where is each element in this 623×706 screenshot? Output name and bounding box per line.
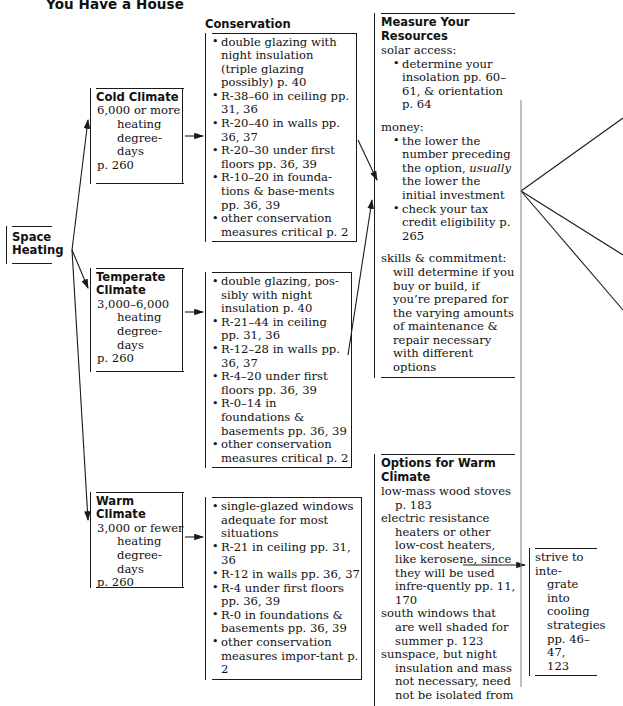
option-cont: p. 183 [381,499,517,513]
space-heating-line2: Heating [12,243,63,257]
warm-climate-degree-3: degree-days [97,549,186,576]
options-warm-list: low-mass wood stoves p. 183 electric res… [381,485,517,703]
temperate-climate-name-2: Climate [96,283,146,297]
list-item: check your tax credit eligibility p. 265 [393,203,517,244]
conservation-warm-list: single-glazed windows adequate for most … [212,500,365,677]
skills-body: will determine if you buy or build, if y… [381,266,517,375]
money-bullet-1-emphasis: usually [469,161,511,175]
conservation-temperate-list: double glazing, pos-sibly with night ins… [212,275,355,465]
strive-line: strive to inte- [535,551,601,578]
list-item: R-0–14 in foundations & basements pp. 36… [212,397,349,438]
solar-access-label: solar access: [381,44,517,58]
warm-climate-degree-2: heating [97,535,186,549]
list-item: R-4 under first floors pp. 36, 39 [212,582,361,609]
node-warm-climate: Warm Climate 3,000 or fewer heating degr… [90,492,186,588]
list-item: R-38–60 in ceiling pp. 31, 36 [212,90,352,117]
strive-line: 123 [535,660,601,674]
option-cont: are well shaded for summer p. 123 [381,621,517,648]
measure-group-solar: solar access: determine your insolation … [381,44,517,112]
strive-line: pp. 46–47, [535,633,601,660]
list-item: R-21–44 in ceiling pp. 31, 36 [212,316,349,343]
temperate-climate-degree-3: degree-days [97,325,186,352]
options-warm-heading-line2: Climate [381,470,430,484]
node-conservation-warm: single-glazed windows adequate for most … [205,497,365,680]
option-cont: heaters or other low-cost heaters, like … [381,526,517,608]
cold-climate-degree-2: heating [97,118,186,132]
list-item: other conservation measures impor-tant p… [212,636,361,677]
skills-label: skills & commitment: [381,252,517,266]
edge-root-temperate [72,250,88,288]
list-item: electric resistance heaters or other low… [381,512,517,607]
temperate-climate-degree-2: heating [97,311,186,325]
list-item: R-20–30 under first floors pp. 36, 39 [212,144,352,171]
strive-text: strive to inte- grate into cooling strat… [535,551,601,673]
page-title: You Have a House [46,0,184,12]
temperate-climate-name-1: Temperate [96,270,165,284]
list-item: R-20–40 in walls pp. 36, 37 [212,117,352,144]
node-options-warm-climate: Options for Warm Climate low-mass wood s… [374,454,517,706]
cold-climate-page: p. 260 [97,159,186,173]
money-label: money: [381,121,517,135]
cold-climate-degree-1: 6,000 or more [97,104,186,118]
node-conservation-temperate: double glazing, pos-sibly with night ins… [205,272,355,468]
strive-line: grate into [535,578,601,605]
option-lead: electric resistance [381,511,489,525]
list-item: other conservation measures critical p. … [212,212,352,239]
list-item: R-10–20 in founda-tions & base-ments pp.… [212,171,352,212]
node-cold-climate: Cold Climate 6,000 or more heating degre… [90,88,186,184]
list-item: single-glazed windows adequate for most … [212,500,361,541]
node-space-heating: Space Heating [6,226,68,264]
conservation-heading: Conservation [205,18,360,32]
option-cont: insulation and mass not necessary, need … [381,662,517,703]
list-item: the lower the number preceding the optio… [393,135,517,203]
solar-access-list: determine your insolation pp. 60–61, & o… [381,58,517,112]
temperate-climate-degree-1: 3,000–6,000 [97,298,186,312]
list-item: south windows that are well shaded for s… [381,607,517,648]
temperate-climate-page: p. 260 [97,352,186,366]
list-item: sunspace, but night insulation and mass … [381,648,517,702]
list-item: determine your insolation pp. 60–61, & o… [393,58,517,112]
option-lead: sunspace, but night [381,647,497,661]
cold-climate-degree-3: degree-days [97,132,186,159]
list-item: double glazing, pos-sibly with night ins… [212,275,349,316]
money-bullet-1-post: the lower the initial investment [402,174,505,202]
edge-measure-fan-2 [521,191,623,255]
option-lead: south windows that [381,606,496,620]
measure-group-money: money: the lower the number preceding th… [381,121,517,243]
edge-measure-fan-3 [521,191,623,310]
money-list: the lower the number preceding the optio… [381,135,517,244]
list-item: double glazing with night insulation (tr… [212,36,352,90]
list-item: low-mass wood stoves p. 183 [381,485,517,512]
option-lead: low-mass wood stoves [381,484,511,498]
warm-climate-name: Warm Climate [96,492,186,522]
conservation-cold-list: double glazing with night insulation (tr… [212,36,360,240]
list-item: R-12–28 in walls pp. 36, 37 [212,343,349,370]
list-item: R-0 in foundations & basements pp. 36, 3… [212,609,361,636]
measure-heading-line2: Resources [381,29,448,43]
list-item: R-21 in ceiling pp. 31, 36 [212,541,361,568]
space-heating-line1: Space [12,230,51,244]
node-measure-resources: Measure Your Resources solar access: det… [374,13,517,378]
edge-root-warm [72,250,88,520]
edge-measure-fan-1 [521,118,623,191]
measure-group-skills: skills & commitment: will determine if y… [381,252,517,374]
measure-heading-line1: Measure Your [381,15,470,29]
cold-climate-name: Cold Climate [96,88,186,104]
list-item: R-4–20 under first floors pp. 36, 39 [212,370,349,397]
list-item: R-12 in walls pp. 36, 37 [212,568,361,582]
options-warm-heading-line1: Options for Warm [381,456,496,470]
edge-root-cold [72,120,88,250]
strive-line: cooling [535,605,601,619]
warm-climate-degree-1: 3,000 or fewer [97,522,186,536]
list-item: other conservation measures critical p. … [212,438,349,465]
node-temperate-climate: Temperate Climate 3,000–6,000 heating de… [90,268,186,372]
node-conservation-cold: Conservation double glazing with night i… [205,18,360,242]
strive-line: strategies [535,619,601,633]
node-strive-integrate: strive to inte- grate into cooling strat… [529,548,601,676]
